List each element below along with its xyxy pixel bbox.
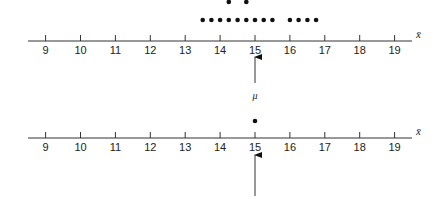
- tick-label: 18: [354, 141, 366, 153]
- bottom-axis-variable: x̄: [415, 125, 421, 137]
- data-dot: [227, 0, 232, 4]
- tick-label: 12: [144, 141, 156, 153]
- tick-label: 17: [319, 44, 331, 56]
- tick-label: 9: [43, 141, 49, 153]
- data-dot: [218, 18, 223, 23]
- data-dot: [253, 18, 258, 23]
- top-dot-plot: 910111213141516171819 x̄: [28, 0, 421, 56]
- data-dot: [235, 18, 240, 23]
- bottom-dots: [253, 119, 258, 124]
- data-dot: [270, 18, 275, 23]
- top-dots: [200, 0, 318, 22]
- tick-label: 10: [74, 44, 86, 56]
- data-dot: [253, 119, 258, 124]
- tick-label: 10: [74, 141, 86, 153]
- data-dot: [314, 18, 319, 23]
- tick-label: 14: [214, 141, 226, 153]
- tick-label: 13: [179, 44, 191, 56]
- tick-label: 16: [284, 44, 296, 56]
- mu-indicator: μ: [251, 57, 257, 101]
- tick-label: 15: [249, 141, 261, 153]
- data-dot: [288, 18, 293, 23]
- tick-label: 13: [179, 141, 191, 153]
- tick-label: 19: [388, 141, 400, 153]
- top-axis-variable: x̄: [415, 28, 421, 40]
- tick-label: 15: [249, 44, 261, 56]
- tick-label: 9: [43, 44, 49, 56]
- bottom-axis-ticks: 910111213141516171819: [43, 132, 401, 153]
- tick-label: 14: [214, 44, 226, 56]
- tick-label: 12: [144, 44, 156, 56]
- data-dot: [305, 18, 310, 23]
- top-axis-ticks: 910111213141516171819: [43, 35, 401, 56]
- tick-label: 18: [354, 44, 366, 56]
- data-dot: [209, 18, 214, 23]
- data-dot: [261, 18, 266, 23]
- tick-label: 11: [110, 44, 121, 56]
- data-dot: [296, 18, 301, 23]
- data-dot: [244, 0, 249, 4]
- mu-label: μ: [251, 90, 257, 101]
- tick-label: 17: [319, 141, 331, 153]
- data-dot: [200, 18, 205, 23]
- data-dot: [227, 18, 232, 23]
- data-dot: [244, 18, 249, 23]
- sampling-distribution-diagram: 910111213141516171819 x̄ μ 9101112131415…: [0, 0, 440, 199]
- tick-label: 11: [110, 141, 121, 153]
- tick-label: 19: [388, 44, 400, 56]
- bottom-dot-plot: 910111213141516171819 x̄: [28, 119, 421, 196]
- tick-label: 16: [284, 141, 296, 153]
